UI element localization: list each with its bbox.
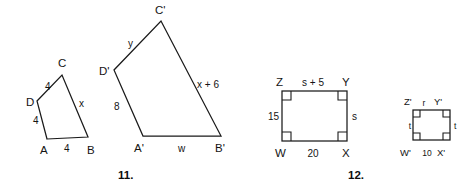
vertex-label-x: X [342,147,350,159]
vertex-label-b-prime: B' [215,142,225,154]
side-label-da-prime: 8 [114,101,120,112]
vertex-label-w-prime: W' [400,147,411,158]
side-label-wx-prime: 10 [422,148,432,158]
vertex-label-a-prime: A' [134,142,144,154]
vertex-label-b: B [87,144,95,156]
side-label-yx: s [352,111,357,122]
vertex-label-z-prime: Z' [404,96,412,107]
right-angle-mark-z-prime [413,110,420,117]
side-label-dc: 4 [45,81,51,92]
problem-number-11: 11. [118,169,133,181]
rectangle-w-prime-x-prime-y-prime-z-prime: Z' Y' W' X' r t t 10 [400,96,457,158]
problem-number-12: 12. [348,169,364,181]
side-label-ab-prime: w [177,143,186,154]
right-angle-mark-x [338,132,347,141]
vertex-label-y: Y [342,76,350,88]
vertex-label-z: Z [276,76,283,88]
right-angle-mark-x-prime [443,133,450,140]
side-label-zy-prime: r [423,98,426,108]
vertex-label-a: A [40,144,48,156]
vertex-label-y-prime: Y' [434,96,442,107]
vertex-label-c: C [58,57,66,69]
side-label-yx-prime: t [454,121,457,131]
rect-wxyz-prime-outline [413,110,450,140]
side-label-dc-prime: y [128,38,133,49]
side-label-da: 4 [33,115,39,126]
geometry-figure-sheet: A B C D 4 x 4 4 A' B' C' D' y x + 6 w 8 … [0,0,467,192]
quadrilateral-abcd: A B C D 4 x 4 4 [26,57,95,156]
vertex-label-c-prime: C' [155,4,166,16]
vertex-label-d-prime: D' [99,65,110,77]
side-label-wx: 20 [307,148,319,159]
side-label-cb: x [79,98,84,109]
figure-canvas: A B C D 4 x 4 4 A' B' C' D' y x + 6 w 8 … [0,0,467,192]
vertex-label-x-prime: X' [437,147,445,158]
side-label-zw-prime: t [409,121,412,131]
quadrilateral-a-prime-b-prime-c-prime-d-prime: A' B' C' D' y x + 6 w 8 [99,4,225,154]
right-angle-mark-w [282,132,291,141]
side-label-zy: s + 5 [302,77,324,88]
right-angle-mark-y-prime [443,110,450,117]
rect-wxyz-outline [282,91,347,141]
vertex-label-w: W [275,147,286,159]
side-label-ab: 4 [64,143,70,154]
right-angle-mark-z [282,91,291,100]
right-angle-mark-y [338,91,347,100]
vertex-label-d: D [26,96,34,108]
side-label-cb-prime: x + 6 [197,79,219,90]
rectangle-wxyz: Z Y W X s + 5 s 20 15 [268,76,357,159]
side-label-zw: 15 [268,111,280,122]
right-angle-mark-w-prime [413,133,420,140]
